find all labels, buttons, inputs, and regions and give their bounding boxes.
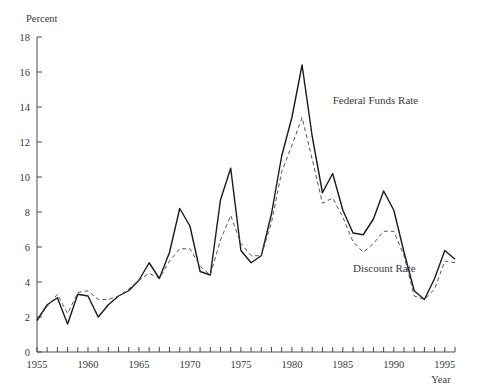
x-axis-tick-labels: 195519601965197019751980198519901995 <box>27 359 456 370</box>
series-label-federal-funds-rate: Federal Funds Rate <box>333 94 419 106</box>
x-axis-title: Year <box>431 374 451 385</box>
y-axis-tick-label: 2 <box>25 312 30 323</box>
y-axis-title: Percent <box>26 13 58 24</box>
series-line-discount-rate <box>37 118 455 319</box>
y-axis-tick-label: 14 <box>20 102 31 113</box>
x-axis-ticks <box>37 347 455 352</box>
x-axis-tick-label: 1990 <box>383 359 404 370</box>
y-axis-tick-label: 4 <box>25 277 31 288</box>
y-axis-tick-label: 12 <box>20 137 31 148</box>
x-axis-tick-label: 1980 <box>281 359 302 370</box>
y-axis-tick-label: 0 <box>25 347 30 358</box>
x-axis-tick-label: 1970 <box>179 359 200 370</box>
x-axis-group: 195519601965197019751980198519901995 <box>27 347 456 370</box>
y-axis-tick-label: 16 <box>20 67 31 78</box>
y-axis-tick-label: 8 <box>25 207 30 218</box>
y-axis-tick-label: 6 <box>25 242 30 253</box>
x-axis-tick-label: 1965 <box>128 359 149 370</box>
interest-rate-line-chart: 024681012141618 195519601965197019751980… <box>0 0 488 389</box>
series-label-discount-rate: Discount Rate <box>353 262 416 274</box>
x-axis-tick-label: 1975 <box>230 359 251 370</box>
y-axis-tick-label: 18 <box>20 32 31 43</box>
chart-canvas: 024681012141618 195519601965197019751980… <box>0 0 488 389</box>
y-axis-ticks <box>37 37 42 352</box>
y-axis-tick-label: 10 <box>20 172 31 183</box>
y-axis-group: 024681012141618 <box>20 32 43 358</box>
x-axis-tick-label: 1960 <box>77 359 98 370</box>
x-axis-tick-label: 1985 <box>332 359 353 370</box>
x-axis-tick-label: 1995 <box>434 359 455 370</box>
x-axis-tick-label: 1955 <box>27 359 48 370</box>
y-axis-tick-labels: 024681012141618 <box>20 32 31 358</box>
